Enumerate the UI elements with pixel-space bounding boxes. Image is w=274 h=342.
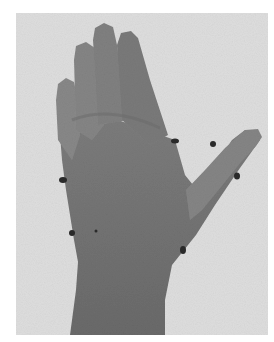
marker-1 bbox=[171, 139, 179, 144]
marker-7 bbox=[180, 246, 186, 254]
marker-3 bbox=[234, 173, 240, 180]
marker-6 bbox=[95, 230, 98, 233]
hand-illustration bbox=[16, 13, 268, 335]
marker-4 bbox=[59, 177, 67, 183]
marker-2 bbox=[210, 141, 216, 147]
hand-photograph bbox=[16, 13, 268, 335]
marker-5 bbox=[69, 230, 75, 236]
